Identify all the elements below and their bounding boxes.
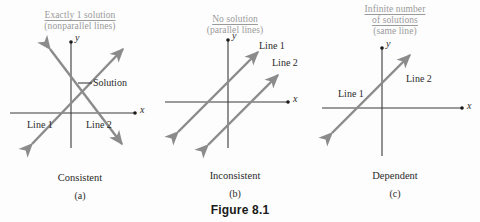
panel-a-header-line-1: Exactly 1 solution [0, 10, 160, 21]
panel-c-letter: (c) [310, 188, 480, 199]
panel-c-classification: Dependent [310, 170, 480, 181]
panel-b-x-axis-label: x [293, 93, 297, 104]
panel-b-line-2-label: Line 2 [272, 57, 298, 68]
panel-c-y-axis [380, 46, 384, 156]
panel-a-line-1-label: Line 1 [27, 119, 53, 130]
panel-b-y-axis-label: y [232, 30, 236, 41]
panel-a-letter: (a) [0, 190, 160, 201]
figure-8-1: Exactly 1 solution (nonparallel lines) [0, 0, 480, 222]
panel-b-line-1 [178, 52, 258, 132]
panel-a-line-2-label: Line 2 [86, 119, 112, 130]
panel-c-header: Infinite number of solutions (same line) [310, 4, 480, 37]
panel-c-x-axis [322, 106, 464, 110]
panel-b-line-2 [208, 75, 278, 145]
panel-a-header: Exactly 1 solution (nonparallel lines) [0, 10, 160, 32]
panel-a-plot [0, 32, 160, 152]
panel-b-x-axis [165, 100, 290, 104]
panel-b-classification: Inconsistent [160, 170, 310, 181]
panel-a-x-axis [10, 111, 137, 115]
panel-a-y-axis [69, 40, 73, 148]
panel-b-plot [160, 32, 310, 152]
panel-a-header-line-2: (nonparallel lines) [0, 21, 160, 32]
panel-a-x-axis-label: x [140, 104, 144, 115]
panel-c-x-axis-label: x [467, 100, 471, 111]
panel-c-line-2-label: Line 2 [406, 73, 432, 84]
panel-c-header-line-2: of solutions [310, 15, 480, 26]
panel-b-line-1-label: Line 1 [259, 40, 285, 51]
figure-caption: Figure 8.1 [0, 203, 480, 217]
panel-c-line-1-label: Line 1 [338, 88, 364, 99]
panel-a-y-axis-label: y [75, 32, 79, 43]
panel-b-header-line-1: No solution [160, 14, 310, 25]
panel-b-y-axis [226, 38, 230, 148]
panel-c-infinite-solutions: Infinite number of solutions (same line) [310, 0, 480, 222]
panel-c-header-line-3: (same line) [310, 26, 480, 37]
panel-c-y-axis-label: y [386, 38, 390, 49]
panel-a-classification: Consistent [0, 172, 160, 183]
panel-b-letter: (b) [160, 188, 310, 199]
panel-a-solution-label: Solution [93, 77, 127, 88]
panel-c-header-line-1: Infinite number [310, 4, 480, 15]
panel-c-plot [310, 40, 480, 160]
panel-a-exactly-one-solution: Exactly 1 solution (nonparallel lines) [0, 0, 160, 222]
panel-b-no-solution: No solution (parallel lines) [160, 0, 310, 222]
